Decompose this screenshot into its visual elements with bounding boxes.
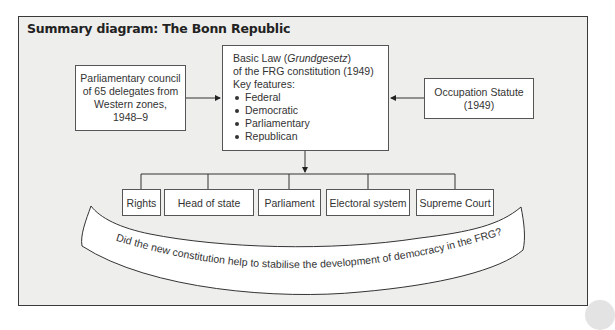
key-features-label: Key features:: [233, 78, 378, 91]
basic-law-subheading: of the FRG constitution (1949): [233, 65, 378, 78]
supreme-court-box: Supreme Court: [416, 189, 494, 216]
basic-law-box: Basic Law (Grundgesetz) of the FRG const…: [222, 45, 389, 151]
electoral-system-box: Electoral system: [326, 189, 410, 216]
basic-law-heading: Basic Law (Grundgesetz): [233, 52, 378, 65]
heading-prefix: Basic Law (: [233, 52, 287, 64]
heading-italic: Grundgesetz: [287, 52, 347, 64]
head-of-state-box: Head of state: [164, 189, 254, 216]
feature-item: Parliamentary: [233, 117, 378, 130]
right-box-line: Occupation Statute: [434, 86, 523, 99]
feature-item: Democratic: [233, 104, 378, 117]
rights-box: Rights: [122, 189, 161, 216]
heading-suffix: ): [347, 52, 351, 64]
feature-item: Federal: [233, 91, 378, 104]
left-box-line: of 65 delegates from: [83, 85, 179, 98]
page-curl-artifact: [585, 300, 615, 330]
feature-item: Republican: [233, 130, 378, 143]
right-box-line: (1949): [464, 99, 494, 112]
left-box-line: Parliamentary council: [80, 72, 180, 85]
parliamentary-council-box: Parliamentary council of 65 delegates fr…: [75, 65, 186, 131]
left-box-line: 1948–9: [113, 111, 148, 124]
left-box-line: Western zones,: [94, 98, 167, 111]
occupation-statute-box: Occupation Statute (1949): [424, 78, 534, 119]
parliament-box: Parliament: [258, 189, 321, 216]
key-features-list: Federal Democratic Parliamentary Republi…: [233, 91, 378, 143]
